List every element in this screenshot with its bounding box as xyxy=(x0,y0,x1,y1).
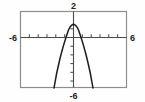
x-axis-max-label: 6 xyxy=(130,33,135,43)
parabola-graph: 2 -6 -6 6 xyxy=(0,0,145,102)
y-axis-min-label: -6 xyxy=(69,91,77,101)
x-axis-min-label: -6 xyxy=(9,33,17,43)
y-axis-max-label: 2 xyxy=(71,1,76,11)
graph-viewport: 2 -6 -6 6 xyxy=(0,0,145,102)
